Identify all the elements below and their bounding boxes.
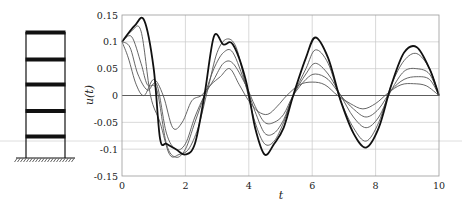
y-tick-label: 0.15 <box>97 10 118 21</box>
ground-hatching <box>15 159 75 163</box>
response-curves <box>122 18 439 158</box>
x-tick-label: 2 <box>182 180 188 191</box>
plot-area: 0246810 0.150.10.050-0.05-0.1-0.15 t u(t… <box>83 10 445 203</box>
y-tick-label: -0.1 <box>100 144 118 155</box>
y-tick-label: -0.05 <box>94 117 118 128</box>
x-tick-label: 0 <box>119 180 125 191</box>
x-axis-label: t <box>279 189 284 202</box>
shear-frame-illustration <box>15 31 76 163</box>
floor-slab-2 <box>26 109 66 113</box>
y-tick-label: 0.1 <box>103 36 118 47</box>
series-curve <box>122 26 439 157</box>
y-axis-label: u(t) <box>83 85 96 105</box>
x-tick-label: 8 <box>373 180 379 191</box>
y-tick-label: -0.15 <box>94 171 118 182</box>
floor-slab-3 <box>26 83 66 87</box>
y-tick-labels: 0.150.10.050-0.05-0.1-0.15 <box>94 10 118 182</box>
floor-slab-4 <box>26 58 66 62</box>
floor-slab-5 <box>26 31 66 35</box>
series-curve <box>122 18 439 155</box>
x-tick-label: 4 <box>246 180 252 191</box>
floor-slab-1 <box>26 135 66 139</box>
figure: 0246810 0.150.10.050-0.05-0.1-0.15 t u(t… <box>0 0 462 210</box>
y-tick-label: 0 <box>112 90 118 101</box>
x-tick-label: 6 <box>309 180 315 191</box>
y-tick-label: 0.05 <box>97 63 118 74</box>
x-tick-label: 10 <box>433 180 445 191</box>
series-curve <box>122 36 439 158</box>
